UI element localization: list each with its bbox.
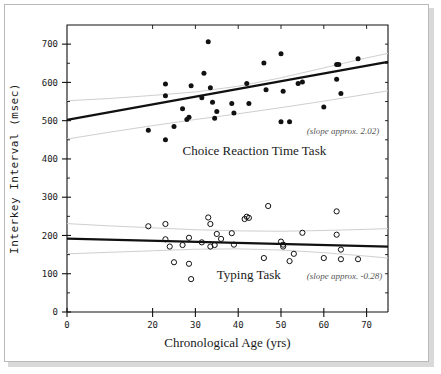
data-point-open bbox=[261, 255, 266, 260]
series-label-1: Typing Task bbox=[217, 267, 282, 282]
data-point-open bbox=[214, 231, 219, 236]
data-point-open bbox=[266, 203, 271, 208]
y-tick-label: 700 bbox=[42, 39, 58, 49]
data-point-filled bbox=[212, 116, 217, 121]
data-point-filled bbox=[163, 81, 168, 86]
data-point-filled bbox=[214, 109, 219, 114]
data-point-open bbox=[180, 242, 185, 247]
x-tick-label: 50 bbox=[276, 320, 287, 330]
data-point-open bbox=[334, 209, 339, 214]
data-point-filled bbox=[261, 60, 266, 65]
data-point-filled bbox=[180, 106, 185, 111]
data-point-filled bbox=[229, 101, 234, 106]
ci-upper-band-1 bbox=[67, 224, 388, 232]
data-point-open bbox=[167, 244, 172, 249]
data-point-filled bbox=[336, 62, 341, 67]
x-tick-label: 60 bbox=[318, 320, 329, 330]
x-tick-label: 30 bbox=[190, 320, 201, 330]
x-tick-label: 0 bbox=[64, 320, 69, 330]
data-point-filled bbox=[296, 81, 301, 86]
y-tick-label: 500 bbox=[42, 116, 58, 126]
data-point-filled bbox=[338, 91, 343, 96]
data-point-open bbox=[321, 255, 326, 260]
data-point-filled bbox=[186, 115, 191, 120]
data-point-filled bbox=[146, 128, 151, 133]
data-point-open bbox=[218, 236, 223, 241]
data-point-filled bbox=[264, 87, 269, 92]
data-point-open bbox=[229, 231, 234, 236]
x-tick-label: 40 bbox=[233, 320, 244, 330]
data-point-filled bbox=[199, 95, 204, 100]
regression-line-1 bbox=[67, 239, 388, 247]
data-point-filled bbox=[281, 89, 286, 94]
axis-tick-labels: 01002003004005006007000203040506070 bbox=[42, 39, 372, 330]
data-point-filled bbox=[172, 124, 177, 129]
y-tick-label: 0 bbox=[53, 307, 58, 317]
data-point-filled bbox=[163, 93, 168, 98]
data-point-filled bbox=[210, 100, 215, 105]
data-point-open bbox=[206, 215, 211, 220]
data-point-open bbox=[338, 247, 343, 252]
y-tick-label: 300 bbox=[42, 192, 58, 202]
data-point-filled bbox=[189, 83, 194, 88]
slope-annotation-1: (slope approx. -0.28) bbox=[307, 271, 383, 281]
data-point-filled bbox=[246, 101, 251, 106]
regression-line-0 bbox=[67, 62, 388, 120]
data-point-filled bbox=[287, 119, 292, 124]
data-point-open bbox=[291, 251, 296, 256]
data-point-filled bbox=[206, 39, 211, 44]
data-point-open bbox=[186, 261, 191, 266]
series-label-0: Choice Reaction Time Task bbox=[183, 143, 327, 158]
data-point-filled bbox=[244, 81, 249, 86]
data-point-open bbox=[163, 221, 168, 226]
y-tick-label: 100 bbox=[42, 269, 58, 279]
data-point-filled bbox=[231, 111, 236, 116]
figure-container: 01002003004005006007000203040506070 Inte… bbox=[0, 0, 441, 374]
x-tick-label: 20 bbox=[147, 320, 158, 330]
data-point-filled bbox=[356, 56, 361, 61]
data-point-filled bbox=[334, 77, 339, 82]
data-point-open bbox=[189, 276, 194, 281]
y-tick-label: 200 bbox=[42, 231, 58, 241]
data-point-open bbox=[186, 235, 191, 240]
y-axis-title: Interkey Interval (msec) bbox=[8, 83, 21, 254]
data-point-open bbox=[334, 232, 339, 237]
data-point-open bbox=[208, 221, 213, 226]
scatter-plot: 01002003004005006007000203040506070 Inte… bbox=[0, 0, 441, 374]
slope-annotation-0: (slope approx. 2.02) bbox=[307, 126, 380, 136]
data-point-open bbox=[355, 257, 360, 262]
data-point-filled bbox=[208, 85, 213, 90]
data-point-filled bbox=[201, 71, 206, 76]
data-point-filled bbox=[279, 119, 284, 124]
data-point-filled bbox=[321, 104, 326, 109]
data-point-open bbox=[171, 260, 176, 265]
data-point-filled bbox=[300, 80, 305, 85]
data-point-filled bbox=[163, 137, 168, 142]
data-point-open bbox=[287, 259, 292, 264]
data-point-filled bbox=[279, 51, 284, 56]
y-tick-label: 400 bbox=[42, 154, 58, 164]
data-point-open bbox=[338, 257, 343, 262]
y-tick-label: 600 bbox=[42, 78, 58, 88]
x-axis-title: Chronological Age (yrs) bbox=[164, 335, 290, 350]
x-tick-label: 70 bbox=[361, 320, 372, 330]
